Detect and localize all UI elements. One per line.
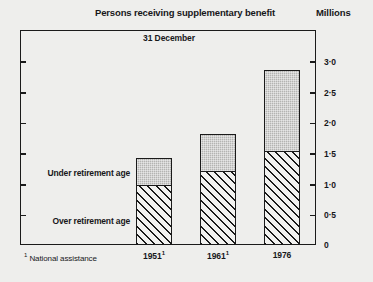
y-tick-label-0: 0 (324, 240, 329, 250)
y-tick-right-2-0 (310, 123, 316, 125)
footnote-text: National assistance (29, 254, 96, 263)
y-tick-label-1-0: 1·0 (324, 180, 336, 190)
x-tick-label-1961-text: 1961 (207, 251, 226, 261)
y-tick-label-2-0: 2·0 (324, 118, 336, 128)
x-tick-label-1961: 19611 (188, 250, 248, 261)
y-tick-right-1-5 (310, 153, 316, 155)
y-tick-left-2-5 (20, 92, 26, 94)
x-tick-label-1976: 1976 (252, 250, 312, 260)
annotation-over-retirement-age: Over retirement age (26, 216, 130, 226)
chart-figure: Persons receiving supplementary benefit … (0, 0, 373, 282)
y-tick-label-0-5: 0·5 (324, 210, 336, 220)
bar-1951[interactable] (136, 158, 172, 245)
bar-1961-under-retirement-age (200, 134, 236, 172)
bar-1951-over-retirement-age (136, 185, 172, 245)
bar-1976[interactable] (264, 70, 300, 245)
bar-1976-under-retirement-age (264, 70, 300, 152)
y-tick-left-1-5 (20, 153, 26, 155)
y-tick-right-1-0 (310, 184, 316, 186)
y-tick-label-1-5: 1·5 (324, 149, 336, 159)
x-tick-label-1976-text: 1976 (273, 250, 292, 260)
bar-1951-under-retirement-age (136, 158, 172, 186)
x-tick-label-1951-footnote-mark: 1 (162, 250, 165, 256)
y-tick-right-2-5 (310, 92, 316, 94)
y-tick-left-3-0 (20, 61, 26, 63)
chart-footnote: 1 National assistance (24, 252, 97, 263)
bar-1976-over-retirement-age (264, 151, 300, 245)
x-tick-label-1951: 19511 (124, 250, 184, 261)
y-tick-right-3-0 (310, 61, 316, 63)
chart-title: Persons receiving supplementary benefit (60, 7, 310, 18)
y-tick-label-3-0: 3·0 (324, 57, 336, 67)
y-tick-left-1-0 (20, 184, 26, 186)
annotation-under-retirement-age: Under retirement age (26, 168, 130, 178)
x-tick-label-1951-text: 1951 (143, 251, 162, 261)
y-tick-right-0-5 (310, 215, 316, 217)
bar-1961-over-retirement-age (200, 171, 236, 246)
y-tick-left-2-0 (20, 123, 26, 125)
footnote-marker: 1 (24, 252, 27, 258)
bar-1961[interactable] (200, 134, 236, 246)
y-tick-label-2-5: 2·5 (324, 88, 336, 98)
y-axis-unit-label: Millions (316, 7, 351, 18)
x-tick-label-1961-footnote-mark: 1 (226, 250, 229, 256)
